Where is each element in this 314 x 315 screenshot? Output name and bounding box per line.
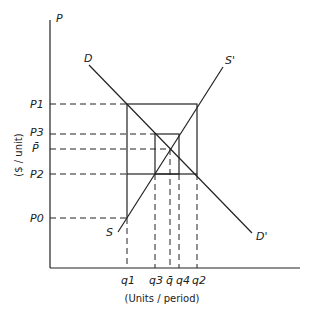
demand-label-D-prime: D' — [256, 230, 268, 243]
demand-label-D: D — [84, 52, 92, 65]
quantity-label-q4: q4 — [176, 274, 190, 287]
x-axis-title: (Units / period) — [125, 293, 200, 304]
supply-label-S-prime: S' — [225, 54, 235, 67]
price-label-p0: P0 — [30, 212, 44, 225]
quantity-label-q1: q1 — [121, 274, 135, 287]
supply-label-S: S — [106, 226, 113, 239]
price-label-p3: P3 — [30, 126, 44, 139]
y-axis-title: ($ / unit) — [13, 133, 24, 176]
quantity-label-qbar: q̄ — [166, 274, 173, 287]
y-axis-label: P — [56, 12, 63, 25]
quantity-label-q3: q3 — [149, 274, 163, 287]
quantity-label-q2: q2 — [192, 274, 206, 287]
price-label-pbar: P̄ — [32, 142, 39, 155]
price-label-p2: P2 — [30, 168, 44, 181]
cobweb-diagram: P ($ / unit) (Units / period) D D' S S' … — [0, 0, 314, 315]
price-label-p1: P1 — [30, 98, 44, 111]
